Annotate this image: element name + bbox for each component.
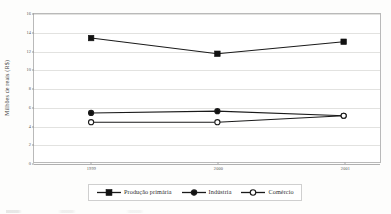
y-tick-label: 12 [26,49,31,53]
y-tick-mark [32,164,34,165]
data-point-marker [215,51,221,57]
data-point-marker [341,113,346,118]
x-tick-mark [91,162,92,164]
legend-marker-icon [240,187,266,198]
legend-marker-icon [96,187,122,198]
chart-figure: Milhões de reais (R$) 0246810121416 1999… [0,0,391,214]
legend-entry[interactable]: Produção primária [96,187,172,198]
x-tick-mark [218,162,219,164]
series-layer [34,14,380,162]
y-axis-title: Milhões de reais (R$) [4,60,10,116]
legend-label: Produção primária [124,189,172,195]
data-point-marker [215,120,220,125]
data-point-marker [89,111,94,116]
y-tick-label: 10 [26,68,31,72]
data-point-marker [89,120,94,125]
y-tick-label: 16 [26,12,31,16]
y-tick-label: 4 [29,124,31,128]
data-point-marker [88,35,94,41]
plot-area: 0246810121416 199920002001 [33,13,381,163]
legend-entry[interactable]: Comércio [240,187,293,198]
gridline [34,164,380,165]
x-tick-label: 2000 [214,167,223,171]
x-tick-label: 1999 [87,167,96,171]
y-tick-label: 8 [29,87,31,91]
y-tick-label: 0 [29,162,31,166]
chart-legend: Produção primáriaIndústriaComércio [88,184,302,201]
legend-label: Comércio [268,189,293,195]
y-tick-label: 2 [29,143,31,147]
scan-artifact [6,210,306,213]
y-tick-label: 14 [26,31,31,35]
legend-label: Indústria [209,189,232,195]
data-point-marker [215,109,220,114]
y-tick-label: 6 [29,106,31,110]
x-tick-mark [345,162,346,164]
legend-entry[interactable]: Indústria [181,187,232,198]
x-tick-label: 2001 [341,167,350,171]
legend-marker-icon [181,187,207,198]
data-point-marker [341,39,347,45]
